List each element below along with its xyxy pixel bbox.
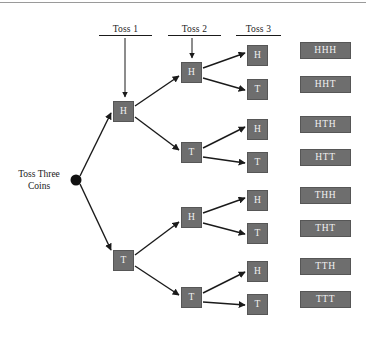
edges-level2-to-level3 [203, 53, 245, 305]
edges-level1-to-level2 [135, 76, 179, 295]
node-level3-t-1[interactable]: T [247, 79, 268, 100]
root-label-line-1: Toss Three [6, 168, 72, 180]
outcome-hhh[interactable]: HHH [300, 42, 351, 59]
node-level2-h-1[interactable]: H [181, 62, 202, 83]
node-level2-t-1[interactable]: T [181, 142, 202, 163]
stage-header-toss-2: Toss 2 [168, 24, 221, 36]
root-node-label: Toss Three Coins [6, 168, 72, 192]
node-level3-t-2[interactable]: T [247, 152, 268, 173]
node-level3-h-2[interactable]: H [247, 119, 268, 140]
stage-header-toss-3: Toss 3 [236, 24, 281, 36]
outcome-hht[interactable]: HHT [300, 76, 351, 93]
tree-diagram-canvas: Toss 1 Toss 2 Toss 3 Toss Three Coins H … [0, 0, 366, 344]
node-level3-h-1[interactable]: H [247, 45, 268, 66]
outcome-tht[interactable]: THT [300, 220, 351, 237]
outcome-hth[interactable]: HTH [300, 116, 351, 133]
node-level1-h[interactable]: H [113, 101, 134, 122]
node-level3-h-3[interactable]: H [247, 190, 268, 211]
outcome-tth[interactable]: TTH [300, 258, 351, 275]
node-level2-h-2[interactable]: H [181, 207, 202, 228]
node-level2-t-2[interactable]: T [181, 287, 202, 308]
outcome-htt[interactable]: HTT [300, 149, 351, 166]
outcome-thh[interactable]: THH [300, 187, 351, 204]
root-dot-icon [71, 175, 82, 186]
edges-root-to-level1 [80, 113, 111, 250]
stage-header-toss-1: Toss 1 [99, 24, 152, 36]
root-label-line-2: Coins [6, 180, 72, 192]
node-level1-t[interactable]: T [113, 250, 134, 271]
node-level3-h-4[interactable]: H [247, 261, 268, 282]
outcome-ttt[interactable]: TTT [300, 291, 351, 308]
node-level3-t-3[interactable]: T [247, 223, 268, 244]
node-level3-t-4[interactable]: T [247, 294, 268, 315]
